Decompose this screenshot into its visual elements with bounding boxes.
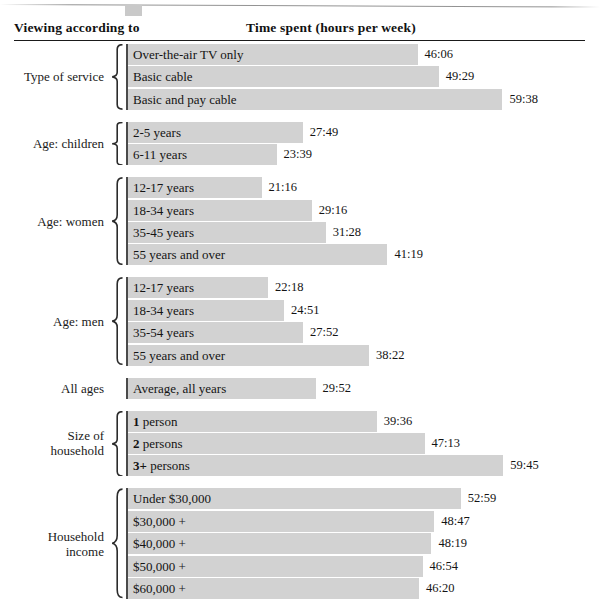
chart-row[interactable]: 55 years and over41:19	[128, 244, 600, 265]
bar-value-label: 52:59	[468, 488, 496, 509]
header-left-title: Viewing according to	[14, 20, 140, 36]
chart-group: Size ofhousehold1 person39:362 persons47…	[0, 411, 600, 477]
group-label-line: All ages	[0, 381, 104, 396]
bar-category-text: person	[140, 414, 178, 429]
bar-value-label: 21:16	[269, 177, 297, 198]
chart-row[interactable]: 12-17 years21:16	[128, 177, 600, 198]
chart-row[interactable]: 1 person39:36	[128, 411, 600, 432]
bar-category-label: 2 persons	[133, 433, 182, 454]
chart-row[interactable]: 18-34 years29:16	[128, 200, 600, 221]
bar-category-label: $30,000 +	[133, 511, 186, 532]
bar-category-prefix: 3+	[133, 458, 147, 473]
bar-category-label: 18-34 years	[133, 200, 194, 221]
group-rows: 12-17 years21:1618-34 years29:1635-45 ye…	[128, 177, 600, 265]
bar-category-label: Basic and pay cable	[133, 89, 237, 110]
bar-category-label: 18-34 years	[133, 300, 194, 321]
chart-row[interactable]: $40,000 +48:19	[128, 533, 600, 554]
bar-value-label: 22:18	[275, 277, 303, 298]
group-rows: Under $30,00052:59$30,000 +48:47$40,000 …	[128, 488, 600, 599]
group-label-line: income	[0, 544, 104, 559]
group-label-line: Size of	[0, 428, 104, 443]
chart-row[interactable]: 35-54 years27:52	[128, 322, 600, 343]
group-label: Age: men	[0, 314, 104, 329]
bar-value-label: 38:22	[376, 345, 404, 366]
chart-row[interactable]: $60,000 +46:20	[128, 578, 600, 599]
header-divider	[14, 40, 585, 41]
bar-category-label: Under $30,000	[133, 488, 211, 509]
chart-row[interactable]: Average, all years29:52	[128, 378, 600, 399]
group-label: Size ofhousehold	[0, 428, 104, 458]
bar-category-label: Over-the-air TV only	[133, 44, 243, 65]
scan-artifact-line	[0, 4, 600, 8]
group-brace-icon	[111, 488, 124, 599]
bar-value-label: 31:28	[333, 222, 361, 243]
bar-category-label: 35-45 years	[133, 222, 194, 243]
group-label: Type of service	[0, 69, 104, 84]
bar-category-label: 2-5 years	[133, 122, 181, 143]
chart-row[interactable]: Basic and pay cable59:38	[128, 89, 600, 110]
chart-row[interactable]: 3+ persons59:45	[128, 455, 600, 476]
group-label-line: household	[0, 443, 104, 458]
group-rows: Over-the-air TV only46:06Basic cable49:2…	[128, 44, 600, 110]
group-label: Age: children	[0, 136, 104, 151]
chart-row[interactable]: 35-45 years31:28	[128, 222, 600, 243]
bar-value-label: 29:52	[323, 378, 351, 399]
bar-category-text: persons	[147, 458, 190, 473]
group-label-line: Age: women	[0, 214, 104, 229]
bar-value-label: 59:38	[509, 89, 537, 110]
chart-row[interactable]: 2 persons47:13	[128, 433, 600, 454]
scan-artifact-blob	[125, 5, 142, 16]
group-rows: 2-5 years27:496-11 years23:39	[128, 122, 600, 165]
group-rows: Average, all years29:52	[128, 378, 600, 399]
bar-value-label: 48:19	[438, 533, 466, 554]
chart-group: All agesAverage, all years29:52	[0, 378, 600, 399]
group-label: Age: women	[0, 214, 104, 229]
chart-group: Type of serviceOver-the-air TV only46:06…	[0, 44, 600, 110]
chart-row[interactable]: $50,000 +46:54	[128, 556, 600, 577]
bar-value-label: 27:49	[310, 122, 338, 143]
group-label-line: Type of service	[0, 69, 104, 84]
chart-group: HouseholdincomeUnder $30,00052:59$30,000…	[0, 488, 600, 599]
chart-row[interactable]: 12-17 years22:18	[128, 277, 600, 298]
bar-value-label: 24:51	[291, 300, 319, 321]
bar-value-label: 29:16	[319, 200, 347, 221]
group-rows: 1 person39:362 persons47:133+ persons59:…	[128, 411, 600, 477]
chart-group: Age: children2-5 years27:496-11 years23:…	[0, 122, 600, 165]
bar-value-label: 59:45	[510, 455, 538, 476]
group-label-line: Age: men	[0, 314, 104, 329]
group-brace-icon	[111, 122, 124, 165]
bar-chart: Type of serviceOver-the-air TV only46:06…	[0, 44, 600, 599]
group-brace-icon	[111, 44, 124, 110]
bar-value-label: 47:13	[432, 433, 460, 454]
group-brace-icon	[111, 411, 124, 477]
chart-row[interactable]: 2-5 years27:49	[128, 122, 600, 143]
chart-row[interactable]: $30,000 +48:47	[128, 511, 600, 532]
group-label-line: Age: children	[0, 136, 104, 151]
chart-row[interactable]: Basic cable49:29	[128, 66, 600, 87]
bar-category-label: $50,000 +	[133, 556, 186, 577]
bar-category-label: 12-17 years	[133, 277, 194, 298]
chart-group: Age: men12-17 years22:1818-34 years24:51…	[0, 277, 600, 365]
bar-category-label: $60,000 +	[133, 578, 186, 599]
bar-value-label: 48:47	[441, 511, 469, 532]
group-label: Householdincome	[0, 529, 104, 559]
chart-row[interactable]: Over-the-air TV only46:06	[128, 44, 600, 65]
bar-category-label: 1 person	[133, 411, 177, 432]
bar-value-label: 23:39	[284, 144, 312, 165]
group-label: All ages	[0, 381, 104, 396]
chart-row[interactable]: 6-11 years23:39	[128, 144, 600, 165]
bar-category-label: 55 years and over	[133, 244, 225, 265]
bar-category-text: persons	[140, 436, 183, 451]
bar-value-label: 27:52	[310, 322, 338, 343]
group-brace-icon	[111, 277, 124, 365]
bar-category-label: Average, all years	[133, 378, 226, 399]
bar-category-label: 55 years and over	[133, 345, 225, 366]
chart-row[interactable]: 18-34 years24:51	[128, 300, 600, 321]
bar-value-label: 46:06	[425, 44, 453, 65]
bar-category-label: 12-17 years	[133, 177, 194, 198]
group-rows: 12-17 years22:1818-34 years24:5135-54 ye…	[128, 277, 600, 365]
chart-row[interactable]: Under $30,00052:59	[128, 488, 600, 509]
bar-value-label: 46:54	[430, 556, 458, 577]
chart-row[interactable]: 55 years and over38:22	[128, 345, 600, 366]
